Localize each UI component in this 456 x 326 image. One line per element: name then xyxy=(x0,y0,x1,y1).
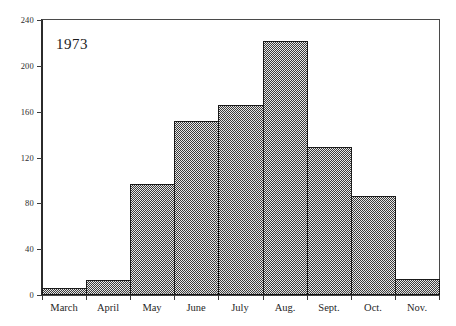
x-axis-tick-label: May xyxy=(130,302,174,313)
y-axis-tick-mark xyxy=(37,112,42,113)
x-axis-tick-label: Oct. xyxy=(351,302,395,313)
x-axis-tick-mark xyxy=(307,295,308,300)
y-axis-tick-label: 40 xyxy=(10,244,34,254)
y-axis-tick-label: 200 xyxy=(10,61,34,71)
x-axis-tick-label: Nov. xyxy=(395,302,439,313)
y-axis-tick-label: 240 xyxy=(10,15,34,25)
y-axis-tick-mark xyxy=(37,203,42,204)
x-axis-tick-mark xyxy=(42,295,43,300)
y-axis-tick-label: 80 xyxy=(10,198,34,208)
x-axis-tick-mark xyxy=(218,295,219,300)
x-axis-tick-label: July xyxy=(218,302,262,313)
x-axis-tick-label: Sept. xyxy=(307,302,351,313)
x-axis-tick-label: Aug. xyxy=(263,302,307,313)
plot-area-frame xyxy=(41,19,440,296)
y-axis-tick-mark xyxy=(37,158,42,159)
y-axis-tick-mark xyxy=(37,66,42,67)
x-axis-tick-mark xyxy=(351,295,352,300)
x-axis-tick-mark xyxy=(174,295,175,300)
x-axis-tick-mark xyxy=(130,295,131,300)
year-annotation: 1973 xyxy=(56,36,88,53)
y-axis-tick-mark xyxy=(37,20,42,21)
y-axis-tick-label: 120 xyxy=(10,153,34,163)
y-axis-tick-label: 0 xyxy=(10,290,34,300)
x-axis-tick-label: June xyxy=(174,302,218,313)
x-axis-tick-mark xyxy=(86,295,87,300)
x-axis-tick-mark xyxy=(395,295,396,300)
x-axis-tick-mark xyxy=(439,295,440,300)
x-axis-tick-label: April xyxy=(86,302,130,313)
y-axis-tick-mark xyxy=(37,249,42,250)
x-axis-tick-label: March xyxy=(42,302,86,313)
histogram-chart: 04080120160200240 MarchAprilMayJuneJulyA… xyxy=(0,0,456,326)
y-axis-tick-label: 160 xyxy=(10,107,34,117)
x-axis-tick-mark xyxy=(263,295,264,300)
